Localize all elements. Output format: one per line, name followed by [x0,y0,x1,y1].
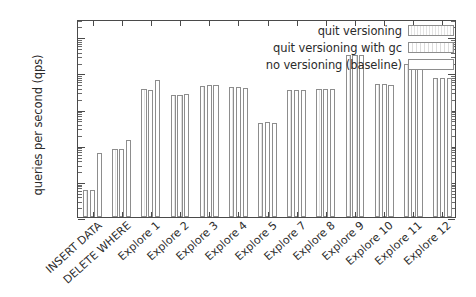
y-axis-minor-tick [78,121,82,122]
y-axis-minor-tick [78,64,82,65]
y-axis-minor-tick [78,158,82,159]
bar [272,123,277,217]
y-axis-tick [78,74,85,75]
x-axis-tick-top [93,21,94,26]
y-axis-minor-tick [78,188,82,189]
y-axis-minor-tick [78,76,82,77]
bar [294,90,299,217]
y-axis-minor-tick [78,152,82,153]
y-axis-tick [78,111,85,112]
bar [316,89,321,217]
legend-item: quit versioning [318,23,454,38]
legend-item: quit versioning with gc [273,40,454,55]
y-axis-minor-tick [78,125,82,126]
x-axis-tick-top [238,21,239,26]
legend-label: quit versioning [318,24,402,38]
x-axis-tick [268,212,269,217]
y-axis-minor-tick [78,78,82,79]
x-axis-tick [384,212,385,217]
x-axis-tick [93,212,94,217]
bar [97,153,102,217]
y-axis-minor-tick [78,155,82,156]
x-axis-tick [151,212,152,217]
bar [411,64,416,217]
bar [171,95,176,217]
bar [184,94,189,217]
y-axis-minor-tick [78,119,82,120]
y-axis-minor-tick [78,44,82,45]
y-axis-minor-tick [451,76,455,77]
chart-legend: quit versioningquit versioning with gcno… [266,20,454,72]
x-axis-tick-top [122,21,123,26]
y-axis-minor-tick [78,194,82,195]
y-axis-minor-tick [78,93,82,94]
bar [112,149,117,217]
bar [440,78,445,217]
x-axis-tick [326,212,327,217]
bar [301,90,306,217]
y-axis-minor-tick [78,42,82,43]
bar [213,85,218,217]
y-axis-minor-tick [78,40,82,41]
bar [177,95,182,217]
y-axis-minor-tick [78,46,82,47]
y-axis-minor-tick [78,150,82,151]
y-axis-title: queries per second (qps) [31,25,45,225]
y-axis-minor-tick [78,27,82,28]
bar [323,89,328,217]
y-axis-minor-tick [78,208,82,209]
x-axis-tick [238,212,239,217]
y-axis-minor-tick [78,186,82,187]
legend-swatch [408,25,454,36]
y-axis-minor-tick [78,53,82,54]
bar [126,140,131,217]
bar [417,63,422,217]
y-axis-minor-tick [78,100,82,101]
bar [359,55,364,217]
y-axis-minor-tick [78,82,82,83]
bar [330,89,335,217]
x-axis-tick-top [151,21,152,26]
x-axis-tick [413,212,414,217]
bar [243,88,248,217]
y-axis-minor-tick [78,197,82,198]
y-axis-tick [448,74,455,75]
y-axis-minor-tick [78,166,82,167]
bar [447,78,452,217]
bar [229,87,234,217]
y-axis-minor-tick [78,185,82,186]
legend-label: quit versioning with gc [273,41,402,55]
bar [141,89,146,217]
y-axis-minor-tick [78,136,82,137]
bar [119,149,124,217]
x-axis-tick-labels: INSERT DATADELETE WHEREExplore 1Explore … [0,219,476,297]
y-axis-tick [78,38,85,39]
bar [352,55,357,217]
y-axis-minor-tick [78,172,82,173]
bar [287,90,292,217]
x-axis-tick [180,212,181,217]
bar [388,85,393,217]
x-axis-tick-top [209,21,210,26]
y-axis-tick [78,147,85,148]
x-axis-tick [355,212,356,217]
x-axis-tick [297,212,298,217]
legend-item: no versioning (baseline) [266,57,454,72]
bar [236,87,241,217]
y-axis-minor-tick [78,21,82,22]
y-axis-minor-tick [78,161,82,162]
bar [155,80,160,217]
y-axis-minor-tick [78,202,82,203]
bar [207,85,212,217]
bar [375,84,380,217]
x-axis-tick-top [180,21,181,26]
bar [83,190,88,217]
y-axis-minor-tick [78,116,82,117]
bar [404,64,409,217]
bar [258,123,263,217]
legend-swatch [408,42,454,53]
bar [148,90,153,217]
x-axis-tick [122,212,123,217]
x-axis-tick [209,212,210,217]
bar [382,84,387,217]
